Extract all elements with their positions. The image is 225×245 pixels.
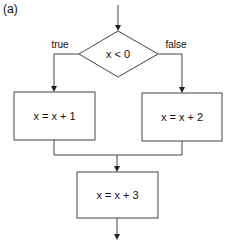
merge-box: x = x + 3 <box>77 172 158 218</box>
true-branch-box: x = x + 1 <box>14 92 95 140</box>
exit-arrow <box>114 218 120 240</box>
panel-label: (a) <box>3 2 18 16</box>
merge-connector <box>54 140 182 172</box>
false-branch-connector <box>158 54 185 93</box>
true-branch-connector <box>51 54 79 92</box>
true-branch-statement: x = x + 1 <box>33 110 75 122</box>
false-branch-box: x = x + 2 <box>142 93 222 141</box>
true-label: true <box>51 39 69 50</box>
decision-diamond: x < 0 <box>79 31 158 77</box>
flowchart: (a) x < 0 true false x = x + 1 x = x + 2 <box>0 0 225 245</box>
false-label: false <box>165 39 187 50</box>
entry-arrow <box>115 5 121 31</box>
merge-statement: x = x + 3 <box>96 189 138 201</box>
false-branch-statement: x = x + 2 <box>161 111 203 123</box>
decision-condition: x < 0 <box>106 48 130 60</box>
